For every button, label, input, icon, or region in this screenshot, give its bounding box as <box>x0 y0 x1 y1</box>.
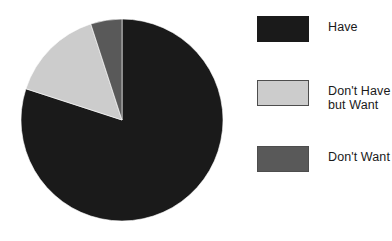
pie-chart-figure: Have Don't Have but Want Don't Want <box>0 0 392 241</box>
legend-label-dont-want: Don't Want <box>328 146 390 165</box>
legend-item-have[interactable]: Have <box>257 16 358 42</box>
pie-slice-group <box>21 19 223 221</box>
legend-swatch-dont-want <box>257 146 309 172</box>
legend-item-dont-have-but-want[interactable]: Don't Have but Want <box>257 80 390 112</box>
pie-chart-plot-area <box>0 0 246 241</box>
pie-chart-svg <box>0 0 246 241</box>
legend-item-dont-want[interactable]: Don't Want <box>257 146 390 172</box>
legend-label-dont-have-but-want: Don't Have but Want <box>328 80 390 112</box>
legend-swatch-have <box>257 16 309 42</box>
chart-legend: Have Don't Have but Want Don't Want <box>257 14 392 204</box>
legend-swatch-dont-have-but-want <box>257 80 309 106</box>
legend-label-have: Have <box>328 16 358 35</box>
